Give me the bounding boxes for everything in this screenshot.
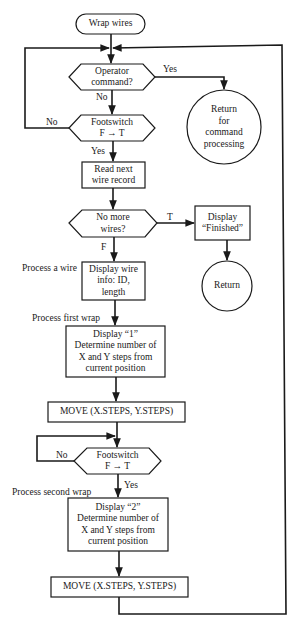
operator-command-label: Operator command? — [69, 64, 155, 90]
return-end-label: Return — [202, 261, 252, 311]
display-finished-label: Display “Finished” — [195, 206, 250, 240]
edge-label-nomore-false: F — [101, 242, 106, 253]
read-next-label: Read next wire record — [82, 162, 145, 188]
move-2-label: MOVE (X.STEPS, Y.STEPS) — [51, 577, 188, 597]
edge-label-footswitch2-yes: Yes — [124, 480, 138, 491]
no-more-wires-label: No more wires? — [69, 210, 157, 237]
edge-label-operator-no: No — [96, 92, 108, 103]
return-command-label: Return for command processing — [187, 90, 261, 164]
display-1-label: Display “1” Determine number of X and Y … — [66, 326, 165, 377]
edge-label-footswitch1-yes: Yes — [91, 146, 105, 157]
display-wire-info-label: Display wire info: ID, length — [82, 262, 145, 300]
edge-label-footswitch2-no: No — [56, 450, 68, 461]
move-1-label: MOVE (X.STEPS, Y.STEPS) — [48, 402, 185, 422]
annotation-process-second-wrap: Process second wrap — [12, 487, 91, 498]
start-terminal-label: Wrap wires — [76, 14, 145, 34]
edge-label-footswitch1-no: No — [46, 117, 58, 128]
footswitch-1-label: Footswitch F → T — [69, 115, 155, 141]
annotation-process-a-wire: Process a wire — [22, 263, 77, 274]
edge-label-operator-yes: Yes — [163, 64, 177, 75]
connector-operator-yes — [155, 77, 224, 89]
footswitch-2-label: Footswitch F → T — [74, 448, 161, 474]
edge-label-nomore-true: T — [167, 212, 173, 223]
annotation-process-first-wrap: Process first wrap — [32, 313, 100, 324]
display-2-label: Display “2” Determine number of X and Y … — [68, 498, 168, 551]
